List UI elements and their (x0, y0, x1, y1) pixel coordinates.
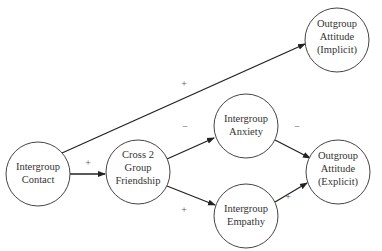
node-label: Intergroup (224, 113, 268, 124)
sign-anxiety-explicit: − (294, 121, 300, 132)
node-label: Cross 2 (122, 149, 154, 160)
edge-friendship-to-anxiety (167, 138, 214, 159)
edge-empathy-to-explicit (275, 183, 307, 202)
node-label: Attitude (320, 31, 355, 42)
edge-anxiety-to-explicit (275, 140, 310, 158)
sign-friendship-empathy: + (181, 204, 187, 215)
node-cross-group-friendship: Cross 2 Group Friendship (106, 140, 170, 204)
node-label: Intergroup (16, 161, 60, 172)
node-label: Attitude (321, 163, 356, 174)
node-label: Empathy (227, 216, 266, 227)
node-outgroup-attitude-explicit: Outgroup Attitude (Explicit) (306, 140, 370, 204)
node-intergroup-contact: Intergroup Contact (6, 142, 70, 206)
node-label: Anxiety (229, 126, 264, 137)
node-label: (Implicit) (317, 44, 358, 56)
sign-friendship-anxiety: − (182, 121, 188, 132)
sign-contact-friendship: + (85, 157, 91, 168)
node-outgroup-attitude-implicit: Outgroup Attitude (Implicit) (305, 8, 369, 72)
path-diagram: + + − + − + Intergroup Contact Cross 2 G… (0, 0, 382, 251)
node-intergroup-empathy: Intergroup Empathy (214, 184, 278, 248)
node-label: Intergroup (224, 203, 268, 214)
edge-friendship-to-empathy (167, 186, 215, 205)
node-label: Outgroup (317, 18, 357, 29)
node-label: Outgroup (318, 150, 358, 161)
sign-empathy-explicit: + (285, 191, 291, 202)
node-intergroup-anxiety: Intergroup Anxiety (214, 94, 278, 158)
node-label: Friendship (116, 175, 161, 186)
node-label: Group (125, 162, 152, 173)
sign-contact-implicit: + (181, 78, 187, 89)
node-label: (Explicit) (318, 176, 359, 188)
node-label: Contact (22, 174, 55, 185)
